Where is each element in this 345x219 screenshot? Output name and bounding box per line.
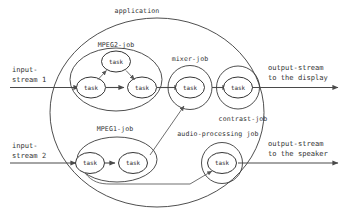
output-stream-display-label-line2: to the display [268, 73, 328, 82]
mixer-job-label: mixer-job [172, 55, 209, 63]
diagram-canvas: application input- stream 1 input- strea… [0, 0, 345, 219]
output-stream-speaker-label-line2: to the speaker [268, 149, 328, 158]
mpeg1-job-label: MPEG1-job [97, 125, 134, 133]
task-label: task [126, 160, 141, 166]
task-label: task [135, 85, 150, 91]
task-label: task [231, 85, 246, 91]
application-label: application [115, 7, 160, 15]
input-stream-2-label-line2: stream 2 [12, 151, 46, 160]
mpeg2-job-label: MPEG2-job [98, 41, 135, 49]
task-label: task [183, 85, 198, 91]
output-stream-display-label-line1: output-stream [268, 63, 324, 72]
task-label: task [215, 160, 230, 166]
edge-mpeg2-in-to-top [98, 71, 107, 80]
contrast-job-label: contrast-job [219, 115, 268, 123]
task-graph-diagram: application input- stream 1 input- strea… [0, 0, 345, 219]
task-label: task [109, 59, 124, 65]
task-label: task [83, 160, 98, 166]
audio-processing-job-label: audio-processing job [177, 130, 258, 138]
edge-mpeg2-top-to-out [126, 71, 135, 80]
input-stream-1-label-line1: input- [12, 65, 38, 74]
application-boundary [50, 18, 264, 207]
input-stream-1-label-line2: stream 1 [12, 75, 46, 84]
task-label: task [84, 85, 99, 91]
output-stream-speaker-label-line1: output-stream [268, 139, 324, 148]
input-stream-2-label-line1: input- [12, 141, 38, 150]
